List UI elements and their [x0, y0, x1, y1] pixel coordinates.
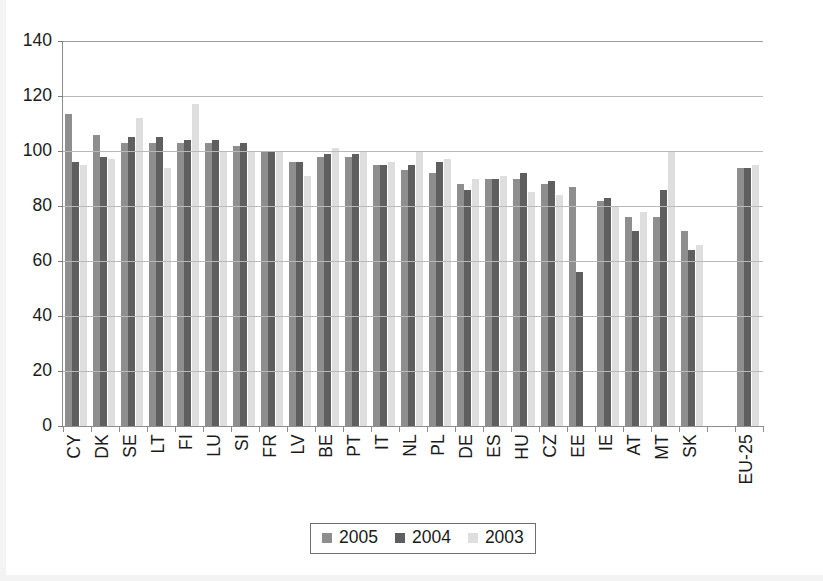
bar-CZ-2003 [556, 195, 563, 426]
x-tick-end [763, 426, 764, 432]
legend-item-2003: 2003 [468, 529, 524, 547]
bar-group-EE [569, 41, 592, 426]
bar-group-IE [597, 41, 620, 426]
gridline-40 [63, 316, 763, 317]
x-axis-label-FR: FR [262, 434, 280, 458]
x-tick-4 [175, 426, 176, 432]
x-tick-18 [567, 426, 568, 432]
bar-IE-2005 [597, 201, 604, 427]
x-tick-15 [483, 426, 484, 432]
bar-DE-2005 [457, 184, 464, 426]
bar-group-SE [121, 41, 144, 426]
x-axis-label-CZ: CZ [542, 434, 560, 458]
bar-ES-2004 [492, 179, 499, 427]
x-axis-label-MT: MT [654, 434, 672, 460]
bar-group-AT [625, 41, 648, 426]
bar-FI-2004 [184, 140, 191, 426]
bar-group-BE [317, 41, 340, 426]
bar-EU-25-2003 [752, 165, 759, 426]
bar-CY-2004 [72, 162, 79, 426]
x-tick-1 [91, 426, 92, 432]
bar-LT-2004 [156, 137, 163, 426]
bar-HU-2004 [520, 173, 527, 426]
y-tick-20 [58, 371, 63, 372]
y-tick-100 [58, 151, 63, 152]
bar-BE-2003 [332, 148, 339, 426]
bar-SI-2003 [248, 151, 255, 426]
x-axis-label-LV: LV [290, 434, 308, 455]
x-axis-label-SE: SE [122, 434, 140, 458]
bar-ES-2003 [500, 176, 507, 426]
bar-CZ-2004 [548, 181, 555, 426]
bar-group-LT [149, 41, 172, 426]
bar-DE-2004 [464, 190, 471, 427]
x-tick-20 [623, 426, 624, 432]
bar-group-spacer [709, 41, 732, 426]
bar-SE-2005 [121, 143, 128, 426]
bar-DK-2005 [93, 135, 100, 427]
bar-BE-2004 [324, 154, 331, 426]
bar-FR-2003 [276, 151, 283, 426]
x-tick-8 [287, 426, 288, 432]
x-tick-7 [259, 426, 260, 432]
bar-BE-2005 [317, 157, 324, 427]
bar-CY-2003 [80, 165, 87, 426]
bar-group-LV [289, 41, 312, 426]
bar-ES-2005 [485, 179, 492, 427]
bar-EE-2005 [569, 187, 576, 426]
x-tick-5 [203, 426, 204, 432]
legend-label-2004: 2004 [412, 529, 451, 547]
gridline-80 [63, 206, 763, 207]
x-axis-label-ES: ES [486, 434, 504, 458]
bar-DE-2003 [472, 179, 479, 427]
x-tick-12 [399, 426, 400, 432]
bar-group-FI [177, 41, 200, 426]
gridline-60 [63, 261, 763, 262]
bar-group-NL [401, 41, 424, 426]
bar-group-IT [373, 41, 396, 426]
x-tick-0 [63, 426, 64, 432]
bar-CY-2005 [65, 114, 72, 426]
legend-item-2004: 2004 [395, 529, 451, 547]
bar-HU-2005 [513, 179, 520, 427]
bar-group-FR [261, 41, 284, 426]
x-axis-label-IE: IE [598, 434, 616, 451]
x-tick-21 [651, 426, 652, 432]
bar-DK-2003 [108, 159, 115, 426]
gridline-120 [63, 96, 763, 97]
bar-group-MT [653, 41, 676, 426]
bar-group-PL [429, 41, 452, 426]
bar-LU-2005 [205, 143, 212, 426]
bar-IE-2004 [604, 198, 611, 426]
bar-AT-2005 [625, 217, 632, 426]
y-tick-120 [58, 96, 63, 97]
legend-item-2005: 2005 [322, 529, 378, 547]
chart-legend: 2005 2004 2003 [310, 523, 536, 554]
x-tick-11 [371, 426, 372, 432]
x-tick-2 [119, 426, 120, 432]
bar-MT-2005 [653, 217, 660, 426]
y-axis-label-80: 80 [0, 197, 52, 215]
bar-SK-2003 [696, 245, 703, 427]
bar-LT-2005 [149, 143, 156, 426]
bar-PT-2005 [345, 157, 352, 427]
y-axis-label-40: 40 [0, 307, 52, 325]
bar-PL-2003 [444, 159, 451, 426]
bar-LV-2005 [289, 162, 296, 426]
bar-chart: 020406080100120140 CYDKSELTFILUSIFRLVBEP… [0, 0, 823, 581]
legend-label-2005: 2005 [339, 529, 378, 547]
bar-group-LU [205, 41, 228, 426]
legend-swatch-2003 [468, 533, 478, 543]
x-tick-3 [147, 426, 148, 432]
bar-CZ-2005 [541, 184, 548, 426]
y-axis-label-120: 120 [0, 87, 52, 105]
bar-EE-2004 [576, 272, 583, 426]
bar-FR-2004 [268, 151, 275, 426]
gridline-20 [63, 371, 763, 372]
y-tick-140 [58, 41, 63, 42]
bar-group-SI [233, 41, 256, 426]
plot-area [62, 41, 763, 427]
x-axis-label-LU: LU [206, 434, 224, 457]
x-axis-label-DE: DE [458, 434, 476, 459]
x-tick-22 [679, 426, 680, 432]
